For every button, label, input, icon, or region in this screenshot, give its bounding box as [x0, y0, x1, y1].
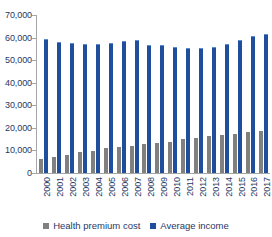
- bar-health-premium-cost: [194, 138, 198, 173]
- bar-health-premium-cost: [155, 143, 159, 173]
- y-tick-mark: [32, 38, 36, 39]
- bars-container: [37, 15, 270, 173]
- x-label-cell: 2016: [244, 175, 257, 219]
- bar-health-premium-cost: [130, 146, 134, 173]
- x-label-cell: 2008: [141, 175, 154, 219]
- x-label-cell: 2012: [192, 175, 205, 219]
- bar-health-premium-cost: [246, 132, 250, 173]
- bar-group: [205, 15, 218, 173]
- x-axis: 2000200120022003200420052006200720082009…: [37, 175, 270, 219]
- x-label-cell: 2001: [50, 175, 63, 219]
- bar-average-income: [173, 47, 177, 173]
- bar-average-income: [109, 43, 113, 173]
- y-tick-mark: [32, 150, 36, 151]
- y-tick-mark: [32, 173, 36, 174]
- bar-health-premium-cost: [220, 135, 224, 173]
- bar-group: [244, 15, 257, 173]
- bar-average-income: [70, 43, 74, 173]
- bar-group: [89, 15, 102, 173]
- bar-health-premium-cost: [91, 151, 95, 173]
- bar-average-income: [199, 48, 203, 173]
- bar-average-income: [135, 40, 139, 173]
- bar-average-income: [186, 48, 190, 173]
- bar-group: [192, 15, 205, 173]
- bar-group: [218, 15, 231, 173]
- y-tick-mark: [32, 128, 36, 129]
- bar-average-income: [225, 44, 229, 173]
- bar-average-income: [96, 44, 100, 173]
- y-tick-mark: [32, 15, 36, 16]
- bar-health-premium-cost: [78, 152, 82, 173]
- y-tick-label: 70,000: [5, 11, 32, 20]
- bar-health-premium-cost: [181, 139, 185, 173]
- x-label-cell: 2003: [76, 175, 89, 219]
- bar-health-premium-cost: [39, 159, 43, 173]
- bar-health-premium-cost: [117, 147, 121, 173]
- bar-average-income: [212, 47, 216, 173]
- legend-label: Average income: [160, 221, 228, 231]
- bar-average-income: [160, 45, 164, 173]
- bar-group: [128, 15, 141, 173]
- y-tick-label: 10,000: [5, 146, 32, 155]
- x-label-cell: 2011: [179, 175, 192, 219]
- y-tick-label: 30,000: [5, 101, 32, 110]
- y-axis: 010,00020,00030,00040,00050,00060,00070,…: [0, 0, 36, 192]
- bar-group: [141, 15, 154, 173]
- plot-area: 010,00020,00030,00040,00050,00060,00070,…: [0, 0, 272, 192]
- y-tick-mark: [32, 83, 36, 84]
- bar-group: [63, 15, 76, 173]
- x-label-cell: 2009: [153, 175, 166, 219]
- bar-health-premium-cost: [233, 134, 237, 174]
- x-label-cell: 2015: [231, 175, 244, 219]
- bar-health-premium-cost: [52, 157, 56, 173]
- x-label-cell: 2007: [128, 175, 141, 219]
- x-label-cell: 2014: [218, 175, 231, 219]
- bar-average-income: [83, 44, 87, 173]
- bar-chart: 010,00020,00030,00040,00050,00060,00070,…: [0, 0, 272, 237]
- x-label-cell: 2006: [115, 175, 128, 219]
- x-label-cell: 2017: [257, 175, 270, 219]
- bar-health-premium-cost: [65, 155, 69, 173]
- bar-group: [153, 15, 166, 173]
- x-tick-label: 2017: [263, 177, 272, 197]
- bar-group: [115, 15, 128, 173]
- bar-average-income: [238, 40, 242, 173]
- bar-group: [179, 15, 192, 173]
- bar-health-premium-cost: [207, 136, 211, 173]
- legend-swatch-icon: [150, 223, 156, 229]
- x-label-cell: 2013: [205, 175, 218, 219]
- bar-group: [37, 15, 50, 173]
- y-tick-label: 20,000: [5, 123, 32, 132]
- chart-legend: Health premium costAverage income: [0, 221, 272, 231]
- bar-health-premium-cost: [168, 142, 172, 173]
- legend-item: Health premium cost: [43, 221, 140, 231]
- x-label-cell: 2002: [63, 175, 76, 219]
- bar-group: [102, 15, 115, 173]
- legend-swatch-icon: [43, 223, 49, 229]
- bar-health-premium-cost: [104, 148, 108, 173]
- y-tick-mark: [32, 60, 36, 61]
- bar-average-income: [251, 36, 255, 173]
- bar-health-premium-cost: [259, 131, 263, 173]
- bar-health-premium-cost: [142, 144, 146, 173]
- y-tick-mark: [32, 105, 36, 106]
- x-label-cell: 2004: [89, 175, 102, 219]
- y-tick-label: 50,000: [5, 56, 32, 65]
- bar-group: [166, 15, 179, 173]
- legend-item: Average income: [150, 221, 228, 231]
- y-tick-label: 40,000: [5, 78, 32, 87]
- legend-label: Health premium cost: [53, 221, 140, 231]
- y-tick-label: 60,000: [5, 33, 32, 42]
- bar-group: [231, 15, 244, 173]
- bar-average-income: [264, 34, 268, 173]
- bar-average-income: [147, 45, 151, 173]
- bar-average-income: [44, 39, 48, 173]
- bar-group: [76, 15, 89, 173]
- bar-group: [50, 15, 63, 173]
- x-label-cell: 2010: [166, 175, 179, 219]
- x-label-cell: 2005: [102, 175, 115, 219]
- bar-average-income: [57, 42, 61, 173]
- x-label-cell: 2000: [37, 175, 50, 219]
- bar-average-income: [122, 41, 126, 173]
- bar-group: [257, 15, 270, 173]
